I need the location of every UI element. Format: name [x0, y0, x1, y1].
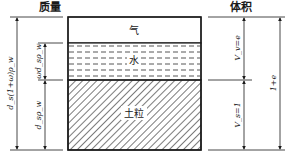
water-label: 水: [129, 55, 139, 66]
total-volume-label: 1+e: [269, 74, 278, 91]
solid-label: 土粒: [124, 107, 144, 119]
water-mass-label: ωd_sρ_w: [34, 43, 43, 78]
void-volume-label: V_v=e: [233, 35, 242, 61]
solid-volume-label: V_s=1: [233, 102, 242, 128]
mass-header: 质量: [39, 0, 61, 14]
air-label: 气: [129, 24, 139, 36]
total-mass-label: d_s(1+ω)ρ_w: [6, 56, 15, 109]
phase-block: 气 水 土粒: [68, 17, 201, 150]
three-phase-soil-diagram: 质量 体积 气 水 土粒 d_s(1+ω)ρ_w ωd_sρ_w d_sρ_w: [0, 0, 288, 160]
solid-mass-label: d_sρ_w: [34, 100, 43, 129]
volume-header: 体积: [230, 0, 252, 14]
